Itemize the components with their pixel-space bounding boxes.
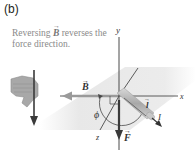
f-vector-arrow-mark: → [124, 127, 131, 135]
b-vector-arrow-mark: → [82, 77, 89, 85]
force-diagram: y x z B → ϕ l → I F → [0, 0, 196, 157]
right-hand-icon [11, 70, 38, 126]
y-axis-label: y [115, 25, 120, 35]
current-label: I [157, 112, 162, 122]
x-axis-label: x [179, 92, 184, 101]
z-axis-label: z [95, 133, 100, 142]
angle-phi-label: ϕ [94, 109, 99, 120]
l-vector-arrow-mark: → [144, 96, 150, 102]
